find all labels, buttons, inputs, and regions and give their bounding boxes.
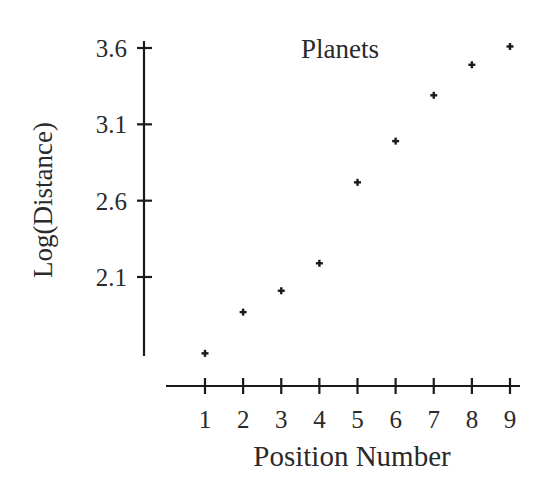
y-tick-label: 3.1: [96, 111, 127, 138]
x-axis-label: Position Number: [253, 440, 451, 472]
data-point: [354, 179, 361, 186]
data-point: [316, 260, 323, 267]
x-axis: 123456789: [166, 378, 520, 433]
data-point: [507, 43, 514, 50]
x-tick-label: 8: [466, 406, 479, 433]
x-tick-label: 2: [237, 406, 250, 433]
data-point: [392, 138, 399, 145]
x-tick-label: 4: [313, 406, 326, 433]
x-tick-label: 3: [275, 406, 288, 433]
data-point: [278, 287, 285, 294]
y-tick-label: 2.1: [96, 264, 127, 291]
chart-title: Planets: [301, 34, 379, 64]
data-point: [468, 61, 475, 68]
x-tick-label: 5: [351, 406, 364, 433]
data-point: [202, 350, 209, 357]
data-point: [240, 309, 247, 316]
scatter-chart: 2.12.63.13.6 123456789 Planets Position …: [0, 0, 546, 491]
x-tick-label: 6: [389, 406, 402, 433]
x-tick-label: 7: [428, 406, 441, 433]
x-tick-label: 9: [504, 406, 517, 433]
y-axis: 2.12.63.13.6: [96, 35, 152, 356]
x-tick-label: 1: [199, 406, 212, 433]
y-tick-label: 3.6: [96, 35, 127, 62]
data-point: [430, 92, 437, 99]
data-points: [202, 43, 514, 357]
y-tick-label: 2.6: [96, 188, 127, 215]
y-axis-label: Log(Distance): [28, 122, 58, 278]
